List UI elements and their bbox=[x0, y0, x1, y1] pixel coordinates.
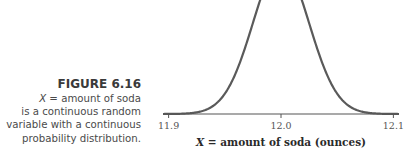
x-tick-label: 11.9 bbox=[158, 120, 179, 131]
x-axis-label-text: = amount of soda (ounces) bbox=[204, 136, 366, 148]
x-tick-label: 12.1 bbox=[383, 120, 404, 131]
chart: 11.912.012.1 X = amount of soda (ounces) bbox=[0, 0, 419, 160]
x-ticks: 11.912.012.1 bbox=[158, 114, 404, 131]
x-tick-label: 12.0 bbox=[270, 120, 291, 131]
x-axis-label: X = amount of soda (ounces) bbox=[195, 136, 366, 148]
density-curve bbox=[163, 0, 399, 114]
